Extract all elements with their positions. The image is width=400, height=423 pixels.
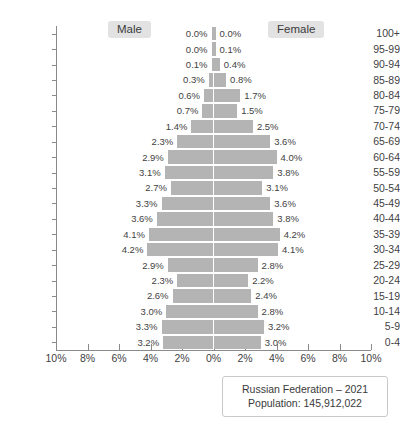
bar-value-male-80-84: 0.6% xyxy=(140,90,200,101)
bar-value-female-0-4: 3.0% xyxy=(265,337,325,348)
bar-female-55-59 xyxy=(214,166,274,179)
x-axis-label: 10% xyxy=(351,352,391,364)
bar-male-40-44 xyxy=(157,212,214,225)
bar-male-55-59 xyxy=(165,166,214,179)
bar-row: 3.1%3.8% xyxy=(0,166,400,179)
bar-male-30-34 xyxy=(147,243,213,256)
bar-value-male-10-14: 3.0% xyxy=(102,306,162,317)
bar-row: 3.2%3.0% xyxy=(0,336,400,349)
bar-value-male-30-34: 4.2% xyxy=(83,244,143,255)
bar-value-male-50-54: 2.7% xyxy=(107,182,167,193)
bar-row: 4.1%4.2% xyxy=(0,228,400,241)
bar-row: 3.3%3.6% xyxy=(0,197,400,210)
bar-value-female-45-49: 3.6% xyxy=(274,198,334,209)
bar-row: 3.0%2.8% xyxy=(0,305,400,318)
bar-value-female-100plus: 0.0% xyxy=(220,28,280,39)
bar-male-0-4 xyxy=(163,336,213,349)
caption-box: Russian Federation – 2021 Population: 14… xyxy=(222,376,388,417)
bar-female-30-34 xyxy=(214,243,279,256)
bar-female-20-24 xyxy=(214,274,249,287)
bar-value-female-35-39: 4.2% xyxy=(284,229,344,240)
bar-value-male-85-89: 0.3% xyxy=(145,74,205,85)
bar-value-male-20-24: 2.3% xyxy=(113,275,173,286)
bar-value-male-60-64: 2.9% xyxy=(104,152,164,163)
bar-value-female-25-29: 2.8% xyxy=(262,260,322,271)
bar-value-male-45-49: 3.3% xyxy=(98,198,158,209)
bar-male-60-64 xyxy=(168,150,214,163)
bar-row: 2.9%2.8% xyxy=(0,258,400,271)
bar-female-40-44 xyxy=(214,212,274,225)
bar-row: 0.0%0.1% xyxy=(0,42,400,55)
bar-row: 3.6%3.8% xyxy=(0,212,400,225)
bar-row: 2.6%2.4% xyxy=(0,289,400,302)
bar-value-female-60-64: 4.0% xyxy=(281,152,341,163)
bar-male-50-54 xyxy=(171,181,214,194)
bar-female-10-14 xyxy=(214,305,258,318)
bar-row: 3.3%3.2% xyxy=(0,320,400,333)
bar-value-male-65-69: 2.3% xyxy=(113,136,173,147)
bar-value-male-35-39: 4.1% xyxy=(85,229,145,240)
x-axis-line xyxy=(56,350,371,351)
bar-value-female-10-14: 2.8% xyxy=(262,306,322,317)
bar-female-80-84 xyxy=(214,89,241,102)
bar-value-male-25-29: 2.9% xyxy=(104,260,164,271)
bar-row: 0.1%0.4% xyxy=(0,58,400,71)
bar-value-male-5-9: 3.3% xyxy=(98,321,158,332)
bar-row: 2.9%4.0% xyxy=(0,150,400,163)
bar-row: 0.7%1.5% xyxy=(0,104,400,117)
bar-value-female-20-24: 2.2% xyxy=(252,275,312,286)
bar-male-75-79 xyxy=(202,104,213,117)
bar-value-female-15-19: 2.4% xyxy=(255,290,315,301)
bar-male-15-19 xyxy=(173,289,214,302)
bar-row: 2.3%2.2% xyxy=(0,274,400,287)
bar-female-15-19 xyxy=(214,289,252,302)
bar-row: 2.7%3.1% xyxy=(0,181,400,194)
bar-value-female-95-99: 0.1% xyxy=(220,44,280,55)
bar-male-20-24 xyxy=(177,274,213,287)
bar-row: 0.0%0.0% xyxy=(0,27,400,40)
bar-value-female-40-44: 3.8% xyxy=(277,213,337,224)
bar-value-male-0-4: 3.2% xyxy=(99,337,159,348)
bar-male-25-29 xyxy=(168,258,214,271)
bar-male-80-84 xyxy=(204,89,213,102)
bar-value-male-15-19: 2.6% xyxy=(109,290,169,301)
bar-row: 4.2%4.1% xyxy=(0,243,400,256)
bar-value-female-5-9: 3.2% xyxy=(268,321,328,332)
bar-female-35-39 xyxy=(214,228,280,241)
bar-value-female-85-89: 0.8% xyxy=(230,74,290,85)
caption-line-population: Population: 145,912,022 xyxy=(231,396,379,410)
bar-value-female-55-59: 3.8% xyxy=(277,167,337,178)
bar-value-male-100plus: 0.0% xyxy=(148,28,208,39)
bar-row: 0.3%0.8% xyxy=(0,73,400,86)
caption-line-country-year: Russian Federation – 2021 xyxy=(231,382,379,396)
bar-value-male-90-94: 0.1% xyxy=(148,59,208,70)
bar-value-male-75-79: 0.7% xyxy=(138,105,198,116)
bar-male-45-49 xyxy=(162,197,214,210)
bar-male-5-9 xyxy=(162,320,214,333)
bar-value-female-30-34: 4.1% xyxy=(282,244,342,255)
bar-row: 2.3%3.6% xyxy=(0,135,400,148)
bar-female-90-94 xyxy=(214,58,220,71)
bar-male-70-74 xyxy=(191,120,213,133)
bar-male-10-14 xyxy=(166,305,213,318)
bar-female-50-54 xyxy=(214,181,263,194)
bar-value-male-70-74: 1.4% xyxy=(127,121,187,132)
bar-male-65-69 xyxy=(177,135,213,148)
bar-row: 1.4%2.5% xyxy=(0,120,400,133)
bar-female-25-29 xyxy=(214,258,258,271)
bar-female-100plus xyxy=(214,27,216,40)
bar-female-70-74 xyxy=(214,120,253,133)
bar-value-male-95-99: 0.0% xyxy=(148,44,208,55)
bar-female-5-9 xyxy=(214,320,264,333)
bar-value-female-50-54: 3.1% xyxy=(266,182,326,193)
bar-female-95-99 xyxy=(214,42,216,55)
population-pyramid-chart: Male Female 100+95-9990-9485-8980-8475-7… xyxy=(0,0,400,423)
bar-value-female-80-84: 1.7% xyxy=(244,90,304,101)
bar-row: 0.6%1.7% xyxy=(0,89,400,102)
bar-value-male-40-44: 3.6% xyxy=(93,213,153,224)
bar-female-75-79 xyxy=(214,104,238,117)
bar-female-0-4 xyxy=(214,336,261,349)
bar-value-female-65-69: 3.6% xyxy=(274,136,334,147)
bar-value-male-55-59: 3.1% xyxy=(101,167,161,178)
bar-female-60-64 xyxy=(214,150,277,163)
